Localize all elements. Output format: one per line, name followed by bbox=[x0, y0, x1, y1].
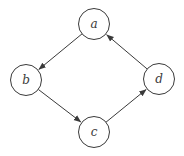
graph-svg: abcd bbox=[0, 0, 184, 156]
edge-a-b bbox=[39, 34, 82, 70]
node-c-label: c bbox=[91, 125, 98, 139]
node-a-label: a bbox=[90, 17, 97, 31]
edge-b-c bbox=[38, 89, 81, 122]
node-c: c bbox=[79, 117, 110, 148]
edge-c-d bbox=[106, 89, 146, 122]
node-a: a bbox=[79, 9, 110, 40]
node-d-label: d bbox=[155, 72, 163, 86]
node-b-label: b bbox=[22, 73, 30, 87]
edge-d-a bbox=[107, 35, 148, 69]
node-d: d bbox=[144, 64, 175, 95]
graph-diagram: abcd bbox=[0, 0, 184, 156]
node-b: b bbox=[11, 65, 42, 96]
